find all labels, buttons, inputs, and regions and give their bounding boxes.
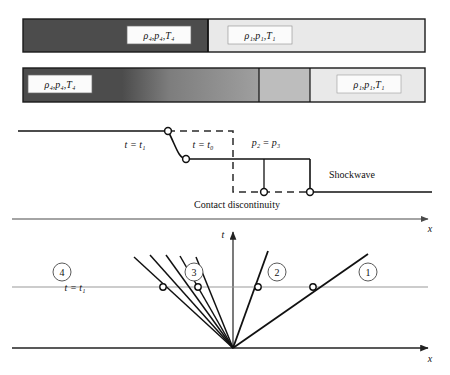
- xt-region-badge-3: 3: [185, 263, 203, 281]
- xt-top-x-axis-label: x: [427, 223, 433, 234]
- xt-marker-shock: [310, 284, 316, 290]
- figure-canvas: ρ₄,p₄,T₄ ρ₁,p₁,T₁ ρ₄,p₄,T₄ ρ₁,p₁,T₁: [0, 0, 450, 375]
- xt-marker-contact: [255, 284, 261, 290]
- xt-bottom-x-axis-label: x: [427, 353, 433, 364]
- label-p2-equals-p3: p₂ = p₃: [251, 137, 281, 148]
- tube2-driver-label: ρ₄,p₄,T₄: [44, 79, 76, 90]
- xt-region-label-4: 4: [60, 267, 65, 278]
- after-rupture-tube: ρ₄,p₄,T₄ ρ₁,p₁,T₁: [23, 68, 425, 102]
- initial-state-tube: ρ₄,p₄,T₄ ρ₁,p₁,T₁: [23, 19, 425, 52]
- pressure-marker-expansion-tail: [183, 156, 190, 163]
- xt-region-badge-1: 1: [359, 263, 377, 281]
- xt-t-axis-label: t: [222, 229, 225, 240]
- x-t-diagram: x x t t = t₁: [12, 219, 433, 364]
- tube1-driven-label: ρ₁,p₁,T₁: [244, 30, 276, 41]
- xt-region-label-3: 3: [192, 267, 197, 278]
- label-t-equals-t1: t = t₁: [125, 139, 146, 150]
- pressure-marker-expansion-head: [165, 128, 172, 135]
- pressure-profile: t = t₁ t = t₀ p₂ = p₃ Shockwave Contact …: [18, 128, 432, 210]
- xt-marker-expansion-tail: [195, 284, 201, 290]
- xt-t1-label: t = t₁: [65, 282, 86, 293]
- xt-marker-expansion-head: [160, 284, 166, 290]
- xt-contact-discontinuity-line: [233, 251, 268, 348]
- label-t-equals-t0: t = t₀: [193, 139, 214, 150]
- label-shockwave: Shockwave: [329, 169, 376, 180]
- xt-region-badge-2: 2: [268, 263, 286, 281]
- xt-region-label-1: 1: [366, 267, 371, 278]
- label-contact-discontinuity: Contact discontinuity: [194, 199, 280, 210]
- pressure-marker-contact: [261, 189, 268, 196]
- tube2-driven-label: ρ₁,p₁,T₁: [353, 79, 385, 90]
- pressure-marker-shock: [307, 189, 314, 196]
- xt-shock-line: [233, 254, 368, 348]
- xt-region-badge-4: 4: [53, 263, 71, 281]
- pressure-curve-expansion-fan: [168, 131, 186, 159]
- xt-region-label-2: 2: [275, 267, 280, 278]
- tube2-region2: [259, 68, 310, 102]
- tube1-driver-label: ρ₄,p₄,T₄: [143, 30, 175, 41]
- shock-tube-figure: ρ₄,p₄,T₄ ρ₁,p₁,T₁ ρ₄,p₄,T₄ ρ₁,p₁,T₁: [0, 0, 450, 375]
- xt-expansion-char-1: [134, 257, 233, 348]
